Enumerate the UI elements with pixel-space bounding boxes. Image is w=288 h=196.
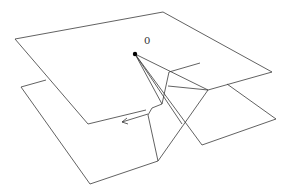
- point-0-marker: [133, 52, 137, 56]
- lower-plane-right: [202, 84, 276, 145]
- ray-to-bottom-1: [135, 54, 202, 145]
- diagram-canvas: [0, 0, 288, 196]
- ray-to-crease: [135, 54, 162, 104]
- ray-to-bottom-2: [135, 54, 182, 124]
- upper-plane: [15, 12, 272, 124]
- ray-to-right-fold: [135, 54, 208, 90]
- lower-plane-left: [21, 80, 158, 184]
- fold-edge-front: [158, 90, 208, 161]
- point-label: 0: [144, 35, 150, 46]
- fold-ridge-line: [169, 63, 200, 72]
